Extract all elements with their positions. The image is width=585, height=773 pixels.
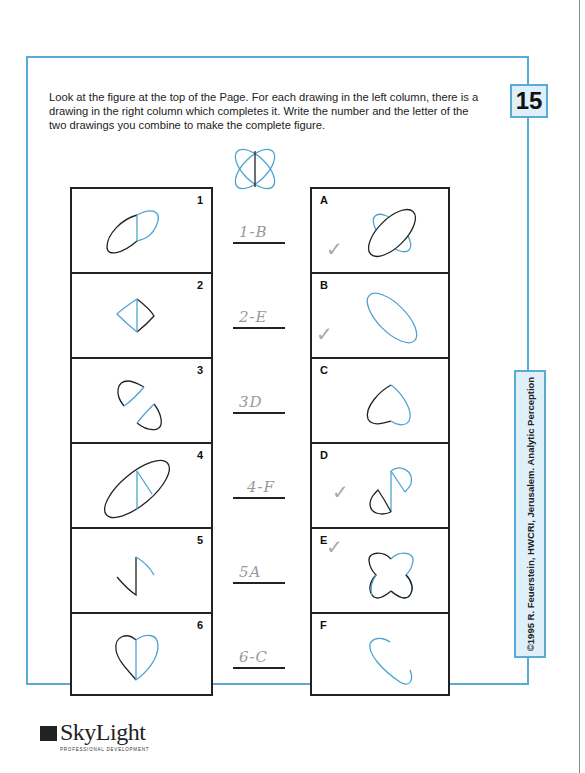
- page-number: 15: [510, 84, 548, 118]
- right-drawing-a: A ✓: [312, 189, 448, 274]
- page-edge-rule: [579, 0, 580, 773]
- check-mark: ✓: [316, 322, 333, 346]
- left-drawing-6: 6: [72, 614, 211, 697]
- drawing-4-icon: [72, 444, 211, 527]
- right-drawing-f: F: [312, 614, 448, 697]
- logo-tagline: PROFESSIONAL DEVELOPMENT: [60, 747, 149, 752]
- drawing-6-icon: [72, 614, 211, 697]
- handwritten-answer: 6-C: [239, 648, 268, 666]
- answer-underline: [233, 582, 285, 584]
- answer-field-3[interactable]: 3D: [233, 384, 287, 414]
- drawing-2-icon: [72, 274, 211, 357]
- answer-underline: [233, 327, 285, 329]
- answer-field-2[interactable]: 2-E: [233, 299, 287, 329]
- answer-field-6[interactable]: 6-C: [233, 639, 287, 669]
- handwritten-answer: 4-F: [247, 478, 275, 496]
- right-drawing-b: B ✓: [312, 274, 448, 359]
- left-drawing-5: 5: [72, 529, 211, 614]
- logo-name: SkyLight: [60, 719, 145, 746]
- logo-mark-icon: [40, 726, 57, 741]
- handwritten-answer: 3D: [239, 393, 263, 411]
- drawing-5-icon: [72, 529, 211, 612]
- answer-field-4[interactable]: 4-F: [233, 469, 287, 499]
- handwritten-answer: 1-B: [239, 223, 268, 241]
- right-drawing-d: D ✓: [312, 444, 448, 529]
- answer-underline: [233, 667, 285, 669]
- right-drawing-c: C: [312, 359, 448, 444]
- answer-underline: [233, 412, 285, 414]
- left-drawing-3: 3: [72, 359, 211, 444]
- reference-figure: [230, 143, 280, 195]
- check-mark: ✓: [326, 237, 343, 261]
- drawing-3-icon: [72, 359, 211, 442]
- drawing-c-icon: [312, 359, 448, 442]
- right-drawing-e: E ✓: [312, 529, 448, 614]
- answer-underline: [233, 242, 285, 244]
- left-drawing-1: 1: [72, 189, 211, 274]
- left-drawing-2: 2: [72, 274, 211, 359]
- left-column: 1 2 3 4 5: [70, 187, 213, 696]
- answer-underline: [233, 497, 285, 499]
- copyright-box: ©1995 R. Feuerstein, HWCRI, Jerusalem. A…: [514, 370, 546, 658]
- drawing-f-icon: [312, 614, 448, 697]
- answer-field-1[interactable]: 1-B: [233, 214, 287, 244]
- handwritten-answer: 5A: [239, 563, 261, 581]
- handwritten-answer: 2-E: [239, 308, 268, 326]
- check-mark: ✓: [326, 535, 343, 559]
- right-column: A ✓ B ✓ C D ✓ E: [310, 187, 450, 696]
- answer-field-5[interactable]: 5A: [233, 554, 287, 584]
- copyright-text: ©1995 R. Feuerstein, HWCRI, Jerusalem. A…: [525, 377, 536, 651]
- check-mark: ✓: [332, 480, 349, 504]
- left-drawing-4: 4: [72, 444, 211, 529]
- instructions-text: Look at the figure at the top of the Pag…: [49, 90, 479, 132]
- drawing-1-icon: [72, 189, 211, 272]
